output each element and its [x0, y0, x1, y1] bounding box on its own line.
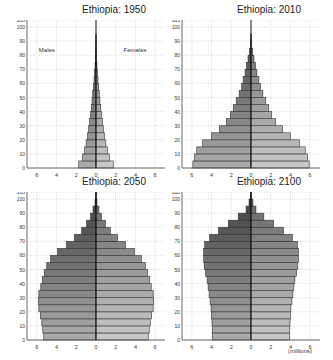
male-bar — [86, 140, 96, 147]
male-bar — [39, 305, 96, 312]
y-tick-label: 30 — [19, 123, 25, 129]
female-bar — [251, 291, 293, 298]
male-bar — [41, 284, 96, 291]
y-tick-label: 90 — [174, 38, 180, 44]
female-bar — [96, 227, 110, 234]
male-bar — [247, 62, 251, 69]
chart-title: Ethiopia: 1950 — [45, 4, 183, 15]
female-bar — [96, 161, 113, 168]
y-tick-label: 90 — [19, 38, 25, 44]
x-tick-label: 6 — [35, 344, 38, 350]
y-tick-label: 20 — [19, 137, 25, 143]
female-bar — [251, 126, 283, 133]
female-bar — [96, 90, 99, 97]
x-tick-label: 2 — [114, 344, 117, 350]
male-bar — [204, 255, 251, 262]
female-bar — [96, 126, 103, 133]
female-bar — [96, 105, 101, 112]
male-bar — [213, 326, 251, 333]
male-bar — [246, 206, 251, 213]
male-bar — [91, 112, 96, 119]
male-bar — [38, 298, 96, 305]
male-bar — [91, 213, 96, 220]
female-bar — [251, 213, 264, 220]
male-bar — [208, 284, 251, 291]
chart-title: Ethiopia: 2100 — [200, 176, 333, 187]
y-tick-label: 100 — [17, 24, 26, 30]
female-bar — [251, 305, 291, 312]
female-bar — [96, 147, 107, 154]
female-bar — [251, 270, 296, 277]
female-bar — [251, 241, 297, 248]
female-bar — [251, 255, 298, 262]
y-tick-label: 0 — [22, 165, 25, 171]
male-bar — [66, 241, 96, 248]
y-tick-label: 10 — [174, 151, 180, 157]
female-bar — [96, 312, 152, 319]
male-bar — [42, 277, 96, 284]
male-bar — [242, 83, 251, 90]
y-tick-label: 50 — [174, 95, 180, 101]
y-tick-label: 20 — [174, 309, 180, 315]
female-bar — [96, 98, 100, 105]
male-bar — [238, 213, 251, 220]
female-bar — [251, 140, 299, 147]
y-tick-label: 0 — [22, 337, 25, 343]
male-bar — [226, 119, 251, 126]
male-bar — [230, 112, 251, 119]
y-tick-label: 50 — [19, 267, 25, 273]
y-tick-label: 30 — [174, 295, 180, 301]
male-bar — [218, 227, 251, 234]
x-tick-label: 4 — [134, 344, 137, 350]
population-pyramid: 01020304050607080901001056420246 — [13, 192, 181, 360]
female-bar — [96, 326, 149, 333]
male-bar — [197, 147, 251, 154]
male-bar — [210, 298, 251, 305]
female-bar — [96, 154, 109, 161]
y-tick-label: 100 — [172, 24, 181, 30]
males-label: Males — [39, 47, 55, 53]
y-tick-label: 105 — [17, 192, 26, 195]
y-tick-label: 80 — [174, 224, 180, 230]
y-tick-label: 70 — [19, 238, 25, 244]
female-bar — [251, 154, 308, 161]
female-bar — [251, 234, 292, 241]
chart-title: Ethiopia: 2010 — [200, 4, 333, 15]
male-bar — [245, 69, 251, 76]
y-tick-label: 80 — [174, 52, 180, 58]
population-pyramid: 01020304050607080901001056420246MalesFem… — [13, 20, 181, 188]
female-bar — [96, 119, 102, 126]
x-tick-label: 6 — [190, 172, 193, 178]
male-bar — [40, 312, 96, 319]
female-bar — [251, 98, 266, 105]
y-tick-label: 105 — [17, 20, 26, 23]
male-bar — [83, 154, 96, 161]
male-bar — [206, 270, 251, 277]
male-bar — [194, 154, 251, 161]
male-bar — [211, 305, 251, 312]
female-bar — [251, 161, 309, 168]
male-bar — [204, 248, 251, 255]
x-tick-label: 2 — [230, 344, 233, 350]
female-bar — [96, 277, 150, 284]
female-bar — [251, 206, 256, 213]
y-tick-label: 60 — [174, 252, 180, 258]
male-bar — [243, 76, 251, 83]
male-bar — [212, 312, 251, 319]
male-bar — [193, 161, 251, 168]
female-bar — [251, 326, 289, 333]
female-bar — [96, 291, 153, 298]
females-label: Females — [124, 47, 147, 53]
male-bar — [204, 262, 251, 269]
x-tick-label: 4 — [55, 344, 58, 350]
y-tick-label: 105 — [172, 192, 181, 195]
female-bar — [96, 284, 151, 291]
female-bar — [96, 220, 105, 227]
female-bar — [251, 112, 272, 119]
male-bar — [42, 319, 96, 326]
male-bar — [89, 126, 96, 133]
female-bar — [251, 90, 263, 97]
female-bar — [96, 213, 101, 220]
female-bar — [251, 284, 294, 291]
population-pyramid: 01020304050607080901001056420246 — [168, 20, 333, 188]
